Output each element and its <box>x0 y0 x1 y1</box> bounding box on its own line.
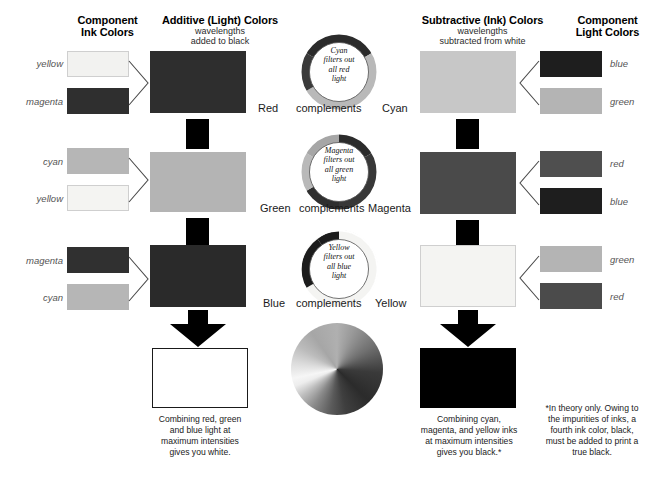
header-subline: added to black <box>140 36 300 46</box>
left-label-magenta-1: magenta <box>2 97 63 107</box>
swatch-ink-magenta-1 <box>67 88 129 114</box>
header-subtractive-colors: Subtractive (Ink) Colors wavelengths sub… <box>400 14 565 46</box>
connector-bracket-right-3 <box>518 255 540 301</box>
connector-bracket-right-1 <box>518 60 540 106</box>
wheel-magenta-filter <box>298 131 380 213</box>
footnote-text: *In theory only. Owing to the impurities… <box>546 403 639 457</box>
caption-subtractive-result: Combining cyan, magenta, and yellow inks… <box>410 414 528 458</box>
down-arrow-additive <box>168 310 228 348</box>
right-label-red-2: red <box>610 159 653 169</box>
result-box-white <box>152 348 248 408</box>
right-label-green-1: green <box>610 97 653 107</box>
color-theory-diagram: Component Ink Colors Additive (Light) Co… <box>0 0 653 491</box>
swatch-ink-magenta-3 <box>67 247 129 273</box>
swatch-subtractive-magenta <box>420 152 516 214</box>
swatch-ink-cyan-2 <box>67 148 129 174</box>
plus-connector-additive-1 <box>186 119 209 149</box>
caption-text: Combining cyan, magenta, and yellow inks… <box>421 414 518 457</box>
wheel-3-right-label: Yellow <box>375 298 406 309</box>
wheel-3-left-label: Blue <box>263 298 285 309</box>
connector-bracket-left-3 <box>128 256 150 302</box>
left-label-cyan-2: cyan <box>10 157 63 167</box>
result-box-black <box>420 348 516 408</box>
header-line: Additive (Light) Colors <box>140 14 300 26</box>
wheel-2-mid-label: complements <box>299 203 364 214</box>
swatch-subtractive-yellow <box>420 245 516 307</box>
wheel-1-right-label: Cyan <box>382 103 408 114</box>
swatch-light-red-3 <box>540 283 602 309</box>
wheel-1-mid-label: complements <box>296 103 361 114</box>
caption-text: Combining red, green and blue light at m… <box>159 414 242 457</box>
header-subline: wavelengths <box>140 26 300 36</box>
header-component-light-colors: Component Light Colors <box>560 14 653 39</box>
right-label-green-3: green <box>610 255 653 265</box>
plus-connector-subtractive-1 <box>456 119 479 149</box>
wheel-2-right-label: Magenta <box>368 203 411 214</box>
left-label-yellow-2: yellow <box>10 194 63 204</box>
header-line: Subtractive (Ink) Colors <box>400 14 565 26</box>
wheel-cyan-filter <box>298 31 380 113</box>
swatch-additive-red <box>150 51 246 113</box>
swatch-light-green-1 <box>540 88 602 114</box>
header-subline: wavelengths <box>400 26 565 36</box>
wheel-2-left-label: Green <box>260 203 291 214</box>
left-label-yellow-1: yellow <box>10 59 63 69</box>
header-line: Light Colors <box>560 26 653 38</box>
connector-bracket-right-2 <box>518 160 540 206</box>
footnote-black-ink: *In theory only. Owing to the impurities… <box>533 403 651 458</box>
caption-additive-result: Combining red, green and blue light at m… <box>150 414 250 458</box>
swatch-additive-blue <box>150 245 246 307</box>
plus-connector-additive-2 <box>186 218 209 248</box>
swatch-light-green-3 <box>540 246 602 272</box>
wheel-1-left-label: Red <box>258 103 278 114</box>
right-label-blue-2: blue <box>610 197 653 207</box>
swatch-light-blue-1 <box>540 51 602 77</box>
right-label-blue-1: blue <box>610 59 653 69</box>
header-additive-colors: Additive (Light) Colors wavelengths adde… <box>140 14 300 46</box>
connector-bracket-left-1 <box>128 60 150 106</box>
right-label-red-3: red <box>610 292 653 302</box>
swatch-additive-green <box>150 152 246 212</box>
swatch-ink-yellow-1 <box>67 51 129 77</box>
swatch-light-blue-2 <box>540 188 602 214</box>
color-wheel-disc <box>291 323 383 415</box>
header-line: Component <box>560 14 653 26</box>
left-label-cyan-3: cyan <box>10 293 63 303</box>
swatch-ink-cyan-3 <box>67 284 129 310</box>
swatch-light-red-2 <box>540 151 602 177</box>
wheel-3-mid-label: complements <box>296 298 361 309</box>
swatch-ink-yellow-2 <box>67 185 129 211</box>
swatch-subtractive-cyan <box>420 51 516 113</box>
header-subline: subtracted from white <box>400 36 565 46</box>
connector-bracket-left-2 <box>128 157 150 203</box>
down-arrow-subtractive <box>438 310 498 348</box>
left-label-magenta-3: magenta <box>2 256 63 266</box>
